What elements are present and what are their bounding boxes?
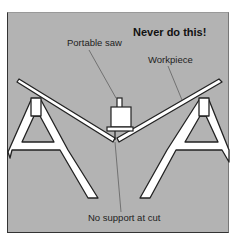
label-workpiece: Workpiece <box>148 54 193 65</box>
label-portable-saw: Portable saw <box>67 37 122 48</box>
label-no-support: No support at cut <box>88 212 160 223</box>
warning-title: Never do this! <box>133 26 206 38</box>
left-sawhorse <box>8 98 98 198</box>
right-sawhorse <box>140 98 229 198</box>
